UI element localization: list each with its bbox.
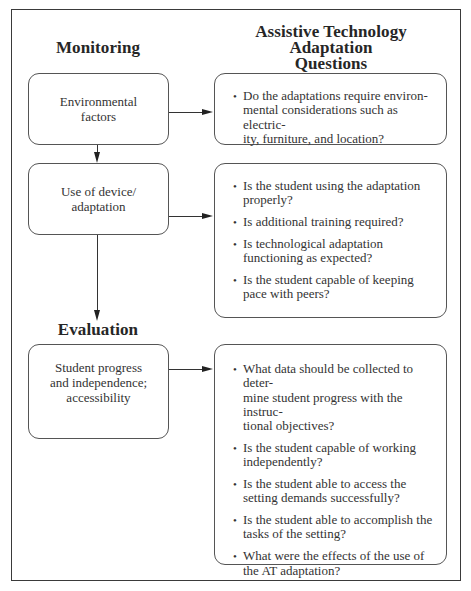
question-item: • What were the effects of the use of th… bbox=[215, 549, 446, 578]
question-item: • Is the student able to access the sett… bbox=[215, 477, 446, 506]
question-text: Is the student using the adaptation prop… bbox=[243, 178, 420, 207]
arrow-head-right-icon bbox=[202, 366, 213, 372]
question-text: Is additional training required? bbox=[243, 214, 404, 229]
bullet-icon: • bbox=[233, 215, 237, 229]
question-text: Is the student capable of working indepe… bbox=[243, 440, 416, 469]
evaluation-heading: Evaluation bbox=[28, 322, 168, 338]
question-item: • Is the student using the adaptation pr… bbox=[215, 179, 446, 208]
bullet-icon: • bbox=[233, 441, 237, 455]
question-text: Is the student able to accomplish the ta… bbox=[243, 512, 432, 541]
arrow-head-right-icon bbox=[202, 213, 213, 219]
question-text: Is the student able to access the settin… bbox=[243, 476, 406, 505]
arrow-line-env-to-questions bbox=[169, 112, 203, 113]
questions-box-use-of-device: • Is the student using the adaptation pr… bbox=[214, 163, 447, 318]
question-text: Do the adaptations require environ-menta… bbox=[243, 88, 428, 146]
bullet-icon: • bbox=[233, 513, 237, 527]
question-item: • Is additional training required? bbox=[215, 215, 446, 229]
bullet-icon: • bbox=[233, 362, 237, 376]
bullet-icon: • bbox=[233, 477, 237, 491]
question-item: • Is the student able to accomplish the … bbox=[215, 513, 446, 542]
arrow-line-use-to-questions bbox=[169, 216, 203, 217]
question-item: • Do the adaptations require environ-men… bbox=[215, 89, 446, 146]
question-list: • Is the student using the adaptation pr… bbox=[215, 179, 446, 302]
questions-box-evaluation: • What data should be collected to deter… bbox=[214, 344, 447, 565]
question-item: • Is the student capable of keeping pace… bbox=[215, 273, 446, 302]
questions-heading-line-1: Assistive Technology Adaptation bbox=[214, 24, 448, 56]
question-item: • Is technological adaptation functionin… bbox=[215, 237, 446, 266]
question-item: • Is the student capable of working inde… bbox=[215, 441, 446, 470]
question-text: Is technological adaptation functioning … bbox=[243, 236, 383, 265]
step-box-environmental-factors: Environmental factors bbox=[28, 73, 169, 145]
question-text: What were the effects of the use of the … bbox=[243, 548, 424, 577]
question-text: What data should be collected to deter-m… bbox=[243, 361, 413, 433]
question-text: Is the student capable of keeping pace w… bbox=[243, 272, 414, 301]
bullet-icon: • bbox=[233, 549, 237, 563]
step-label-line: Environmental bbox=[60, 94, 137, 109]
questions-heading-line-2: Questions bbox=[214, 56, 448, 72]
monitoring-heading: Monitoring bbox=[28, 40, 168, 56]
bullet-icon: • bbox=[233, 273, 237, 287]
step-label-line: and independence; bbox=[50, 375, 147, 390]
arrow-head-down-icon bbox=[94, 152, 100, 163]
step-label-line: adaptation bbox=[61, 199, 136, 214]
question-list: • Do the adaptations require environ-men… bbox=[215, 89, 446, 146]
step-box-student-progress: Student progress and independence; acces… bbox=[28, 344, 169, 439]
arrow-line-progress-to-questions bbox=[169, 369, 203, 370]
question-list: • What data should be collected to deter… bbox=[215, 362, 446, 578]
bullet-icon: • bbox=[233, 179, 237, 193]
question-item: • What data should be collected to deter… bbox=[215, 362, 446, 433]
arrow-line-use-to-evaluation bbox=[97, 235, 98, 311]
bullet-icon: • bbox=[233, 89, 237, 103]
bullet-icon: • bbox=[233, 237, 237, 251]
arrow-head-down-icon bbox=[94, 310, 100, 321]
step-label-line: Use of device/ bbox=[61, 184, 136, 199]
step-box-use-of-device: Use of device/ adaptation bbox=[28, 163, 169, 235]
step-label-line: Student progress bbox=[50, 360, 147, 375]
step-label-line: factors bbox=[60, 109, 137, 124]
questions-box-environmental: • Do the adaptations require environ-men… bbox=[214, 73, 447, 145]
arrow-head-right-icon bbox=[202, 109, 213, 115]
step-label-line: accessibility bbox=[50, 390, 147, 405]
questions-heading: Assistive Technology Adaptation Question… bbox=[214, 24, 448, 72]
